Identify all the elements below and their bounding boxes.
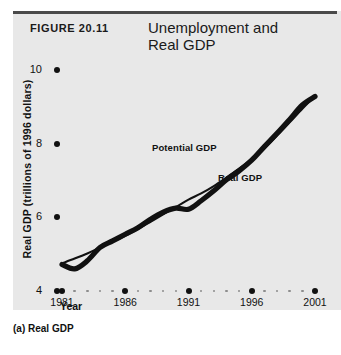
x-tick-label: 1991 bbox=[169, 296, 209, 308]
y-tick-label: 8 bbox=[20, 137, 42, 149]
x-tick-label: 1981 bbox=[42, 296, 82, 308]
y-tick-dot bbox=[54, 141, 60, 147]
y-tick-label: 6 bbox=[20, 210, 42, 222]
x-tick-dot bbox=[59, 288, 65, 294]
y-tick-label: 4 bbox=[20, 284, 42, 296]
x-tick-dot bbox=[186, 288, 192, 294]
series-label-potential-gdp: Potential GDP bbox=[152, 142, 217, 153]
x-tick-minor-dot bbox=[86, 290, 89, 293]
y-tick-dot bbox=[54, 67, 60, 73]
x-tick-label: 2001 bbox=[295, 296, 335, 308]
x-tick-minor-dot bbox=[301, 290, 304, 293]
figure-title: Unemployment and Real GDP bbox=[148, 19, 278, 53]
figure-number: FIGURE 20.11 bbox=[30, 22, 109, 34]
x-tick-minor-dot bbox=[111, 290, 114, 293]
y-tick-label: 10 bbox=[20, 63, 42, 75]
y-axis-title: Real GDP (trillions of 1996 dollars) bbox=[21, 79, 33, 258]
x-tick-label: 1986 bbox=[105, 296, 145, 308]
x-tick-dot bbox=[249, 288, 255, 294]
figure-panel bbox=[13, 11, 341, 310]
figure-caption: (a) Real GDP bbox=[13, 323, 74, 334]
x-tick-minor-dot bbox=[149, 290, 152, 293]
x-tick-minor-dot bbox=[263, 290, 266, 293]
figure-top-rule bbox=[13, 11, 337, 14]
y-axis-title-wrap: Real GDP (trillions of 1996 dollars) bbox=[17, 59, 35, 279]
series-label-real-gdp: Real GDP bbox=[218, 172, 262, 183]
x-tick-label: 1996 bbox=[232, 296, 272, 308]
x-tick-dot bbox=[312, 288, 318, 294]
x-tick-minor-dot bbox=[225, 290, 228, 293]
